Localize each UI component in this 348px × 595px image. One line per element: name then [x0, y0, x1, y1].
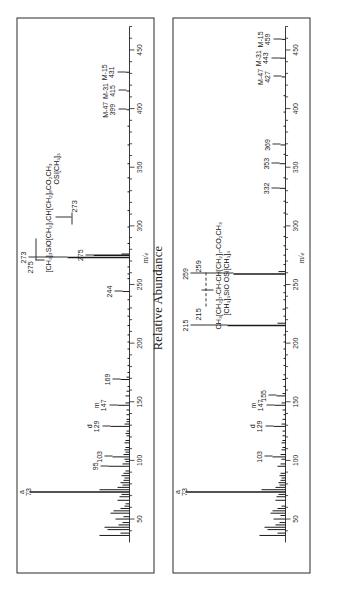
x-tick-350: 350 [291, 161, 298, 172]
peak-leader-443 [271, 57, 279, 58]
x-tick-200: 200 [291, 337, 298, 348]
peak-callout-169: 169 [103, 373, 110, 385]
peak-callout-73: a73 [17, 488, 32, 496]
peak-callout-155: 155 [259, 390, 266, 402]
x-axis-label-text: m/e [296, 252, 305, 263]
fragment-label-left-top: 275 [25, 261, 34, 273]
x-tick-150: 150 [291, 396, 298, 407]
peak-mass-label-169: 169 [103, 373, 110, 385]
peak-series-letter-73: a [17, 488, 24, 496]
peak-loss-label-427: M-47 [256, 68, 263, 84]
x-tick-200: 200 [135, 337, 142, 348]
peak-mass-label-353: 353 [262, 157, 269, 169]
structure-annotation-top: [CH₃]₃SiO[CH₂]₇CH[CH₂]₈CO₂CH₃ OSi[CH₃]₃ [43, 153, 61, 272]
peak-callout-244: 244 [105, 285, 112, 297]
structure-leader-h2-top [71, 212, 72, 224]
peak-callout-443: M-31443 [254, 50, 269, 66]
peak-callout-215: 215 [181, 319, 188, 331]
x-tick-250: 250 [135, 278, 142, 289]
structure-line2-bottom: [CH₃]₃SiO OSi[CH₃]₃ [222, 222, 231, 315]
peak-mass-label-332: 332 [262, 182, 269, 194]
peak-callout-431: M-15431 [100, 64, 115, 80]
peak-callout-427: M-47427 [256, 68, 271, 84]
peak-mass-label-155: 155 [259, 390, 266, 402]
peak-mass-label-73: 73 [24, 488, 31, 496]
peak-callout-459: M-15459 [256, 31, 271, 47]
peak-leader-415 [118, 90, 126, 91]
peak-callout-129: d129 [85, 420, 100, 432]
peak-mass-label-459: 459 [263, 31, 270, 47]
peak-leader-103 [264, 455, 272, 456]
peak-leader-275 [85, 254, 93, 255]
peak-leader-353 [271, 162, 279, 163]
x-tick-400: 400 [291, 102, 298, 113]
fragment-label-right-bottom: 259 [193, 260, 202, 272]
peak-leader-169 [112, 378, 120, 379]
peak-callout-275: 275 [76, 249, 83, 261]
x-tick-450: 450 [135, 44, 142, 55]
peak-callout-415: M-31415 [101, 83, 116, 99]
x-axis-label-bottom: m/e [296, 252, 305, 263]
fragment-label-left-bottom: 215 [193, 308, 202, 320]
peak-leader-399 [118, 108, 126, 109]
structure-leader-h1-top [35, 238, 36, 260]
x-tick-300: 300 [135, 220, 142, 231]
peak-loss-label-459: M-15 [256, 31, 263, 47]
peak-leader-244 [114, 290, 122, 291]
peak-callout-399: M-47399 [101, 101, 116, 117]
peak-mass-label-259: 259 [181, 268, 188, 280]
spectrum-trace-bottom [173, 18, 309, 572]
plot-area-top: 50100150200250300350400450 a7395103d129m… [17, 18, 153, 572]
peak-callout-147: m147 [92, 399, 107, 411]
peak-callout-332: 332 [262, 182, 269, 194]
peak-mass-label-95: 95 [91, 462, 98, 470]
structure-leader-v2-top [55, 216, 71, 217]
peak-mass-label-415: 415 [108, 83, 115, 99]
peak-series-letter-147: m [249, 399, 256, 411]
peak-mass-label-129: 129 [255, 420, 262, 432]
y-axis-label: Relative Abundance [150, 0, 165, 595]
x-tick-50: 50 [291, 515, 298, 523]
peak-leader-103 [104, 455, 112, 456]
x-axis-label-text: m/e [140, 252, 149, 263]
spectrum-trace-top [17, 18, 153, 572]
peak-callout-73: a73 [173, 488, 188, 496]
peak-mass-label-443: 443 [261, 50, 268, 66]
peak-series-letter-129: d [85, 420, 92, 432]
fragment-label-right-top: 273 [69, 200, 78, 212]
peak-mass-label-399: 399 [108, 101, 115, 117]
peak-leader-129 [102, 425, 110, 426]
peak-mass-label-275: 275 [76, 249, 83, 261]
peak-loss-label-399: M-47 [101, 101, 108, 117]
x-axis-label-top: m/e [140, 252, 149, 263]
peak-callout-353: 353 [262, 157, 269, 169]
x-tick-100: 100 [291, 454, 298, 465]
figure-stage: 50100150200250300350400450 a7395103d129m… [0, 0, 348, 595]
structure-annotation-bottom: CH₃[CH₂]₇-CH-CH[CH₂]₇-CO₂CH₃ [CH₃]₃SiO O… [213, 222, 231, 329]
spectrum-panel-top: 50100150200250300350400450 a7395103d129m… [16, 17, 154, 573]
peak-callout-369: 369 [263, 139, 270, 151]
structure-line2-top: OSi[CH₃]₃ [52, 153, 61, 184]
x-tick-250: 250 [291, 278, 298, 289]
x-tick-150: 150 [135, 396, 142, 407]
x-tick-100: 100 [135, 454, 142, 465]
peak-leader-459 [273, 38, 281, 39]
peak-leader-155 [268, 394, 276, 395]
peak-callout-103: 103 [255, 451, 262, 463]
structure-line1-bottom: CH₃[CH₂]₇-CH-CH[CH₂]₇-CO₂CH₃ [213, 222, 222, 329]
peak-loss-label-443: M-31 [254, 50, 261, 66]
peak-loss-label-431: M-15 [100, 64, 107, 80]
x-tick-400: 400 [135, 102, 142, 113]
peak-series-letter-147: m [92, 399, 99, 411]
peak-mass-label-129: 129 [92, 420, 99, 432]
x-tick-350: 350 [135, 161, 142, 172]
peak-mass-label-427: 427 [263, 68, 270, 84]
peak-series-letter-129: d [248, 420, 255, 432]
x-tick-50: 50 [135, 515, 142, 523]
peak-leader-369 [272, 143, 280, 144]
peak-leader-147 [266, 404, 274, 405]
peak-leader-147 [109, 404, 117, 405]
peak-mass-label-431: 431 [107, 64, 114, 80]
peak-mass-label-244: 244 [105, 285, 112, 297]
peak-leader-129 [265, 425, 273, 426]
